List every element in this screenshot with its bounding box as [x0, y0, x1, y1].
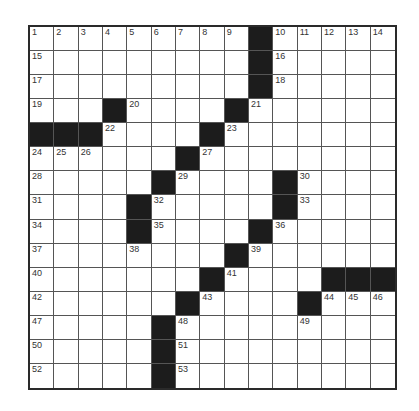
grid-cell[interactable]	[371, 195, 395, 219]
grid-cell[interactable]	[103, 75, 127, 99]
grid-cell[interactable]	[371, 244, 395, 268]
grid-cell[interactable]: 1	[30, 27, 54, 51]
grid-cell[interactable]	[79, 99, 103, 123]
grid-cell[interactable]: 3	[79, 27, 103, 51]
grid-cell[interactable]	[225, 340, 249, 364]
grid-cell[interactable]	[249, 340, 273, 364]
grid-cell[interactable]: 38	[127, 244, 151, 268]
grid-cell[interactable]	[127, 316, 151, 340]
grid-cell[interactable]: 9	[225, 27, 249, 51]
grid-cell[interactable]	[127, 364, 151, 388]
grid-cell[interactable]	[346, 244, 370, 268]
grid-cell[interactable]	[346, 51, 370, 75]
grid-cell[interactable]	[322, 123, 346, 147]
grid-cell[interactable]: 26	[79, 147, 103, 171]
grid-cell[interactable]: 18	[273, 75, 297, 99]
grid-cell[interactable]	[127, 51, 151, 75]
grid-cell[interactable]	[103, 244, 127, 268]
grid-cell[interactable]	[322, 220, 346, 244]
grid-cell[interactable]	[322, 147, 346, 171]
grid-cell[interactable]	[298, 340, 322, 364]
grid-cell[interactable]	[273, 123, 297, 147]
grid-cell[interactable]	[176, 75, 200, 99]
grid-cell[interactable]: 39	[249, 244, 273, 268]
grid-cell[interactable]	[54, 364, 78, 388]
grid-cell[interactable]	[249, 195, 273, 219]
grid-cell[interactable]	[79, 244, 103, 268]
grid-cell[interactable]: 25	[54, 147, 78, 171]
grid-cell[interactable]: 42	[30, 292, 54, 316]
grid-cell[interactable]	[298, 364, 322, 388]
grid-cell[interactable]	[54, 244, 78, 268]
grid-cell[interactable]	[225, 51, 249, 75]
grid-cell[interactable]: 51	[176, 340, 200, 364]
grid-cell[interactable]	[79, 171, 103, 195]
grid-cell[interactable]: 41	[225, 268, 249, 292]
grid-cell[interactable]: 12	[322, 27, 346, 51]
grid-cell[interactable]	[127, 268, 151, 292]
grid-cell[interactable]: 28	[30, 171, 54, 195]
grid-cell[interactable]	[200, 244, 224, 268]
grid-cell[interactable]	[371, 147, 395, 171]
grid-cell[interactable]	[200, 220, 224, 244]
grid-cell[interactable]	[346, 364, 370, 388]
grid-cell[interactable]: 14	[371, 27, 395, 51]
grid-cell[interactable]	[54, 268, 78, 292]
grid-cell[interactable]	[103, 364, 127, 388]
grid-cell[interactable]: 36	[273, 220, 297, 244]
grid-cell[interactable]: 34	[30, 220, 54, 244]
grid-cell[interactable]: 37	[30, 244, 54, 268]
grid-cell[interactable]	[200, 51, 224, 75]
grid-cell[interactable]	[273, 244, 297, 268]
grid-cell[interactable]	[127, 75, 151, 99]
grid-cell[interactable]	[273, 99, 297, 123]
grid-cell[interactable]	[176, 99, 200, 123]
grid-cell[interactable]: 8	[200, 27, 224, 51]
grid-cell[interactable]: 17	[30, 75, 54, 99]
grid-cell[interactable]	[346, 99, 370, 123]
grid-cell[interactable]	[249, 364, 273, 388]
grid-cell[interactable]: 7	[176, 27, 200, 51]
grid-cell[interactable]	[273, 292, 297, 316]
grid-cell[interactable]	[249, 268, 273, 292]
grid-cell[interactable]	[371, 51, 395, 75]
grid-cell[interactable]	[322, 244, 346, 268]
grid-cell[interactable]	[371, 75, 395, 99]
grid-cell[interactable]	[79, 51, 103, 75]
grid-cell[interactable]	[298, 147, 322, 171]
grid-cell[interactable]	[127, 340, 151, 364]
grid-cell[interactable]	[176, 51, 200, 75]
grid-cell[interactable]	[225, 75, 249, 99]
grid-cell[interactable]	[103, 220, 127, 244]
grid-cell[interactable]	[225, 220, 249, 244]
grid-cell[interactable]	[103, 268, 127, 292]
grid-cell[interactable]: 47	[30, 316, 54, 340]
grid-cell[interactable]	[346, 123, 370, 147]
grid-cell[interactable]	[79, 364, 103, 388]
grid-cell[interactable]	[298, 123, 322, 147]
grid-cell[interactable]	[79, 75, 103, 99]
grid-cell[interactable]: 32	[152, 195, 176, 219]
grid-cell[interactable]	[249, 171, 273, 195]
grid-cell[interactable]: 46	[371, 292, 395, 316]
grid-cell[interactable]	[273, 340, 297, 364]
grid-cell[interactable]	[152, 123, 176, 147]
grid-cell[interactable]	[103, 51, 127, 75]
grid-cell[interactable]	[322, 99, 346, 123]
grid-cell[interactable]	[152, 99, 176, 123]
grid-cell[interactable]	[346, 340, 370, 364]
grid-cell[interactable]	[322, 51, 346, 75]
grid-cell[interactable]	[127, 123, 151, 147]
grid-cell[interactable]	[54, 99, 78, 123]
grid-cell[interactable]	[200, 316, 224, 340]
grid-cell[interactable]: 2	[54, 27, 78, 51]
grid-cell[interactable]	[249, 123, 273, 147]
grid-cell[interactable]	[298, 51, 322, 75]
grid-cell[interactable]	[298, 268, 322, 292]
grid-cell[interactable]	[346, 220, 370, 244]
grid-cell[interactable]	[54, 220, 78, 244]
grid-cell[interactable]	[54, 316, 78, 340]
grid-cell[interactable]	[54, 51, 78, 75]
grid-cell[interactable]: 43	[200, 292, 224, 316]
grid-cell[interactable]	[79, 220, 103, 244]
